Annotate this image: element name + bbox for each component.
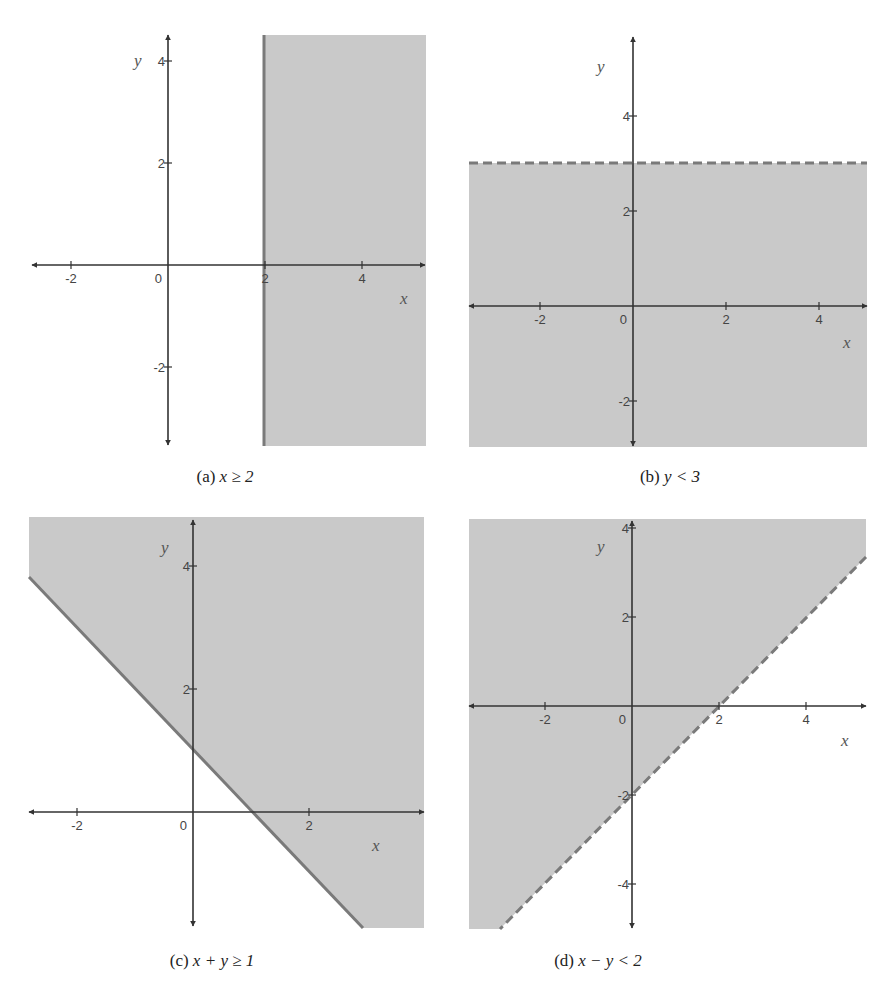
y-axis-label: y [159, 538, 169, 557]
x-tick-label: 2 [305, 818, 312, 833]
y-tick-label: 2 [622, 610, 629, 625]
x-tick-label: -2 [534, 312, 546, 327]
y-axis-label: y [132, 51, 142, 70]
y-tick-label: -4 [617, 877, 629, 892]
origin-label: 0 [155, 271, 162, 286]
caption-b-expression: y < 3 [664, 467, 700, 486]
y-tick-label: 4 [622, 521, 629, 536]
x-axis-label: x [399, 289, 408, 308]
x-tick-label: 4 [815, 312, 822, 327]
y-tick-label: 2 [158, 156, 165, 171]
caption-a-expression: x ≥ 2 [220, 467, 254, 486]
y-axis-label: y [595, 537, 605, 556]
figure-canvas: -22442-20xy -22442-20xy -22420xy -22442-… [0, 0, 890, 993]
x-axis-label: x [840, 731, 849, 750]
x-tick-label: -2 [539, 712, 551, 727]
shaded-region [469, 163, 867, 447]
x-tick-label: 2 [261, 271, 268, 286]
x-tick-label: -2 [71, 818, 83, 833]
caption-d-prefix: (d) [554, 951, 574, 970]
caption-d: (d) x − y < 2 [554, 951, 642, 971]
panel-b-graph: -22442-20xy [469, 37, 867, 447]
y-tick-label: 2 [623, 204, 630, 219]
origin-label: 0 [619, 712, 626, 727]
caption-d-expression: x − y < 2 [578, 951, 642, 970]
panel-d-graph: -22442-2-40xy [469, 519, 866, 929]
y-tick-label: -2 [153, 360, 165, 375]
caption-b: (b) y < 3 [640, 467, 700, 487]
origin-label: 0 [620, 312, 627, 327]
y-tick-label: 2 [183, 682, 190, 697]
x-tick-label: 4 [802, 712, 809, 727]
x-axis-label: x [371, 836, 380, 855]
panel-c-graph: -22420xy [29, 517, 424, 928]
caption-c-prefix: (c) [170, 951, 189, 970]
y-tick-label: -2 [618, 394, 630, 409]
caption-b-prefix: (b) [640, 467, 660, 486]
caption-c-expression: x + y ≥ 1 [193, 951, 254, 970]
shaded-region [29, 517, 424, 928]
caption-c: (c) x + y ≥ 1 [170, 951, 255, 971]
y-tick-label: -2 [617, 788, 629, 803]
y-axis-label: y [595, 57, 605, 76]
x-tick-label: 2 [715, 712, 722, 727]
caption-a-prefix: (a) [196, 467, 215, 486]
y-tick-label: 4 [158, 54, 165, 69]
y-tick-label: 4 [183, 559, 190, 574]
shaded-region [264, 35, 426, 446]
x-axis-label: x [842, 333, 851, 352]
y-tick-label: 4 [623, 109, 630, 124]
caption-a: (a) x ≥ 2 [196, 467, 253, 487]
x-tick-label: -2 [65, 271, 77, 286]
origin-label: 0 [180, 818, 187, 833]
x-tick-label: 4 [358, 271, 365, 286]
panel-a-graph: -22442-20xy [32, 35, 426, 446]
x-tick-label: 2 [722, 312, 729, 327]
